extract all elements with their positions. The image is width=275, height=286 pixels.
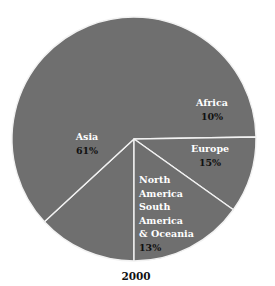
slice-label-north-america-south-america-oceania: South (139, 201, 170, 212)
slice-label-north-america-south-america-oceania: America (138, 215, 183, 226)
slice-label-north-america-south-america-oceania: & Oceania (139, 228, 194, 239)
slice-label-north-america-south-america-oceania: America (138, 188, 183, 199)
chart-title: 2000 (121, 270, 150, 282)
pie-chart: NorthAmericaSouthAmerica& Oceania13%Asia… (0, 0, 275, 286)
slice-value-label-asia: 61% (76, 145, 98, 156)
pie-slices (12, 17, 256, 261)
slice-label-asia: Asia (75, 131, 98, 142)
slice-label-europe: Europe (191, 143, 229, 154)
slice-value-label-europe: 15% (199, 157, 221, 168)
slice-value-label-north-america-south-america-oceania: 13% (139, 242, 161, 253)
slice-value-label-africa: 10% (201, 111, 223, 122)
slice-label-north-america-south-america-oceania: North (139, 174, 170, 185)
slice-label-africa: Africa (195, 97, 228, 108)
